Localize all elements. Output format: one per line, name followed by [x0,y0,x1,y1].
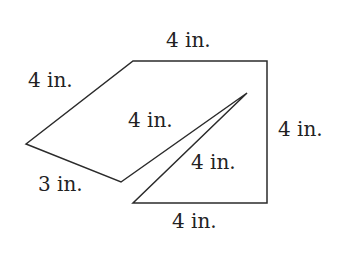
label-lower-left-side: 3 in. [38,174,83,194]
label-bottom-side: 4 in. [172,211,217,231]
label-right-side: 4 in. [278,119,323,139]
label-inner-upper-side: 4 in. [128,110,173,130]
composite-shape-diagram: 4 in. 4 in. 4 in. 4 in. 4 in. 3 in. 4 in… [0,0,349,253]
label-top-side: 4 in. [166,30,211,50]
label-upper-left-side: 4 in. [28,70,73,90]
label-inner-lower-side: 4 in. [191,152,236,172]
